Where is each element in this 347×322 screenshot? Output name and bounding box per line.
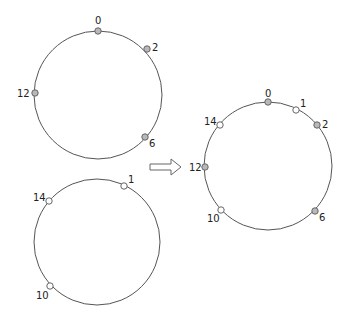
node-label: 12 bbox=[17, 88, 30, 99]
node-1-icon bbox=[121, 183, 127, 189]
node-label: 1 bbox=[128, 174, 134, 185]
node-label: 1 bbox=[300, 98, 306, 109]
node-label: 10 bbox=[36, 290, 49, 301]
arrow-right-icon bbox=[150, 159, 181, 175]
node-label: 0 bbox=[265, 88, 271, 99]
rings-layer: 02126114100121412106 bbox=[17, 15, 332, 305]
node-2-icon bbox=[144, 46, 150, 52]
ring-b: 11410 bbox=[33, 174, 160, 305]
node-label: 2 bbox=[322, 119, 328, 130]
node-label: 10 bbox=[207, 213, 220, 224]
node-12-icon bbox=[202, 164, 208, 170]
merge-arrow-icon bbox=[150, 159, 181, 175]
node-6-icon bbox=[312, 208, 318, 214]
node-label: 14 bbox=[204, 116, 217, 127]
node-label: 6 bbox=[319, 212, 325, 223]
node-6-icon bbox=[142, 134, 148, 140]
node-12-icon bbox=[32, 90, 38, 96]
node-14-icon bbox=[217, 122, 223, 128]
hash-ring-diagram: 02126114100121412106 bbox=[0, 0, 347, 322]
ring-a: 02126 bbox=[17, 15, 162, 159]
node-1-icon bbox=[293, 107, 299, 113]
node-2-icon bbox=[314, 122, 320, 128]
node-0-icon bbox=[265, 99, 271, 105]
node-0-icon bbox=[95, 28, 101, 34]
node-label: 6 bbox=[149, 138, 155, 149]
node-10-icon bbox=[47, 283, 53, 289]
ring-merged: 0121412106 bbox=[189, 88, 332, 230]
node-14-icon bbox=[46, 198, 52, 204]
node-label: 14 bbox=[33, 192, 46, 203]
node-label: 2 bbox=[152, 42, 158, 53]
node-label: 0 bbox=[95, 15, 101, 26]
node-label: 12 bbox=[189, 162, 202, 173]
